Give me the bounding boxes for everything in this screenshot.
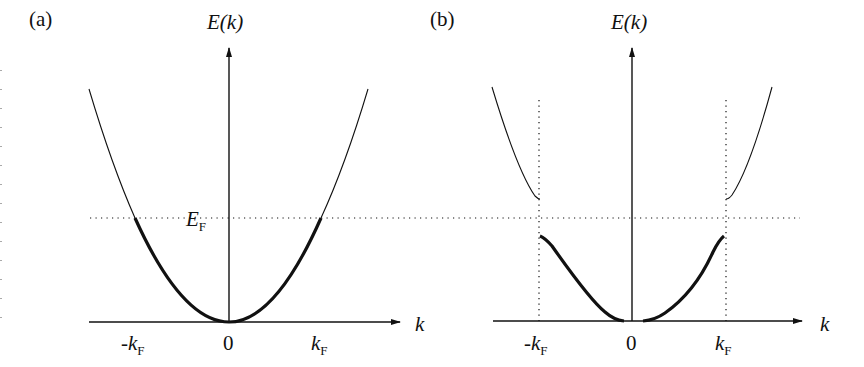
panel-a-dispersion-empty-right [321,89,368,218]
panel-b-lower-band-right [643,236,724,321]
panel-b-y-axis-label: E(k) [611,12,647,33]
panel-a-dispersion-occupied [135,218,321,322]
panel-b-tick-zero: 0 [626,333,637,354]
panel-a [89,48,400,322]
panel-a-tick-minus-kf: -kF [121,333,145,354]
panel-b-tick-minus-kf: -kF [524,333,548,354]
panel-a-x-axis-label: k [415,314,424,335]
panel-b-x-axis-label: k [820,314,829,335]
panel-a-tick-zero: 0 [223,333,234,354]
panel-b-lower-band-left [540,236,624,321]
fermi-energy-label: EF [186,209,206,230]
page-edge-artifact [0,0,3,367]
panel-b [492,48,802,321]
panel-a-y-axis-label: E(k) [207,12,243,33]
panel-a-label: (a) [29,9,52,30]
panel-b-tick-plus-kf: kF [715,333,732,354]
panel-b-upper-band-left [492,87,540,199]
panel-a-tick-plus-kf: kF [311,333,328,354]
panel-b-label: (b) [430,9,455,30]
panel-b-upper-band-right [726,87,772,199]
panel-a-dispersion-empty-left [89,89,135,218]
band-structure-figure [0,0,864,367]
